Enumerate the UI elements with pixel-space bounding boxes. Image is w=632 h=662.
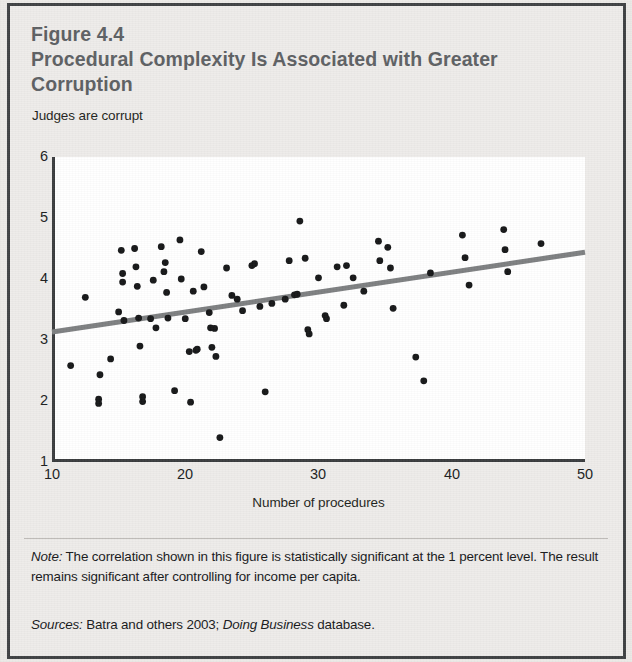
data-point — [158, 243, 165, 250]
data-point — [384, 244, 391, 251]
data-point — [412, 354, 419, 361]
x-tick-label: 40 — [432, 466, 472, 482]
data-point — [135, 315, 142, 322]
data-point — [286, 257, 293, 264]
data-point — [206, 309, 213, 316]
data-point — [256, 303, 263, 310]
x-tick-label: 30 — [298, 466, 338, 482]
data-point — [182, 315, 189, 322]
data-point — [315, 274, 322, 281]
figure-sources: Sources: Batra and others 2003; Doing Bu… — [31, 615, 601, 634]
data-point — [306, 331, 313, 338]
x-tick-label: 50 — [565, 466, 605, 482]
figure-note: Note: The correlation shown in this figu… — [31, 547, 601, 586]
data-point — [209, 344, 216, 351]
data-point — [163, 289, 170, 296]
y-tick-label: 5 — [22, 209, 48, 225]
y-tick-label: 3 — [22, 331, 48, 347]
data-point — [462, 254, 469, 261]
data-point — [139, 393, 146, 400]
data-point — [211, 325, 218, 332]
data-point — [268, 300, 275, 307]
data-point — [201, 284, 208, 291]
figure-page: Figure 4.4 Procedural Complexity Is Asso… — [0, 0, 632, 662]
data-point — [466, 282, 473, 289]
data-point — [187, 399, 194, 406]
data-point — [459, 232, 466, 239]
data-point — [107, 356, 114, 363]
sources-body-2: database. — [314, 617, 375, 632]
data-point — [350, 274, 357, 281]
data-point — [162, 259, 169, 266]
data-point — [137, 343, 144, 350]
data-point — [239, 307, 246, 314]
data-point — [131, 245, 138, 252]
data-point — [134, 283, 141, 290]
data-point — [217, 434, 224, 441]
sources-body-1: Batra and others 2003; — [83, 617, 223, 632]
data-point — [133, 263, 140, 270]
data-point — [97, 371, 104, 378]
data-point — [343, 262, 350, 269]
y-tick-label: 2 — [22, 392, 48, 408]
data-point — [296, 218, 303, 225]
data-point — [213, 353, 220, 360]
data-point — [119, 279, 126, 286]
data-point — [234, 296, 241, 303]
data-point — [282, 296, 289, 303]
data-point — [502, 246, 509, 253]
data-point — [198, 248, 205, 255]
data-point — [115, 309, 122, 316]
data-point — [375, 238, 382, 245]
data-point — [95, 400, 102, 407]
data-point — [165, 315, 172, 322]
y-tick-label: 6 — [22, 148, 48, 164]
data-point — [294, 291, 301, 298]
data-point — [420, 377, 427, 384]
data-point — [251, 260, 258, 267]
data-point — [538, 240, 545, 247]
x-axis-title: Number of procedures — [52, 495, 585, 510]
data-point — [147, 315, 154, 322]
data-point — [390, 305, 397, 312]
data-point — [186, 348, 193, 355]
data-point — [121, 317, 128, 324]
data-point — [427, 270, 434, 277]
data-point — [334, 263, 341, 270]
data-point — [340, 302, 347, 309]
scatter-plot: 1 2 3 4 5 6 10 20 30 40 50 Number of pro… — [0, 0, 632, 530]
x-tick-label: 20 — [165, 466, 205, 482]
sources-publication-name: Doing Business — [223, 617, 314, 632]
data-point — [171, 387, 178, 394]
plot-canvas — [0, 0, 632, 530]
data-point — [323, 315, 330, 322]
data-point — [504, 268, 511, 275]
data-point — [119, 270, 126, 277]
data-point — [118, 247, 125, 254]
data-point — [67, 362, 74, 369]
data-point — [177, 237, 184, 244]
data-point — [178, 276, 185, 283]
data-point — [387, 265, 394, 272]
note-prefix: Note: — [31, 549, 62, 564]
note-body: The correlation shown in this figure is … — [31, 549, 598, 584]
data-point — [153, 324, 160, 331]
data-point — [500, 226, 507, 233]
data-point — [161, 268, 168, 275]
data-point — [376, 257, 383, 264]
plot-background — [52, 157, 585, 462]
data-point — [262, 388, 269, 395]
x-tick-label: 10 — [32, 466, 72, 482]
data-point — [150, 277, 157, 284]
data-point — [360, 288, 367, 295]
data-point — [194, 346, 201, 353]
sources-prefix: Sources: — [31, 617, 83, 632]
data-point — [223, 265, 230, 272]
note-divider — [24, 538, 608, 539]
y-tick-label: 4 — [22, 270, 48, 286]
data-point — [82, 294, 89, 301]
data-point — [190, 288, 197, 295]
data-point — [302, 255, 309, 262]
